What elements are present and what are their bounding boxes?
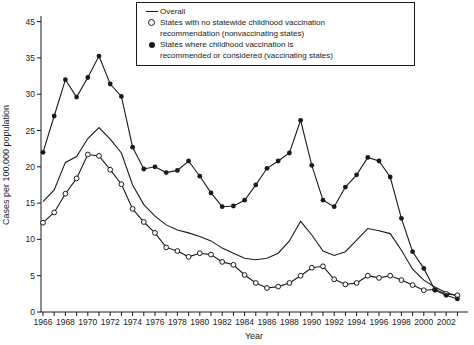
nonvaccinating-data-point <box>209 252 214 257</box>
nonvaccinating-data-point <box>85 152 90 157</box>
nonvaccinating-data-point <box>321 264 326 269</box>
nonvaccinating-data-point <box>63 191 68 196</box>
x-tick-label: 1974 <box>123 317 142 327</box>
nonvaccinating-data-point <box>421 288 426 293</box>
vaccinating-data-point <box>399 216 404 221</box>
nonvaccinating-data-point <box>343 282 348 287</box>
vaccinating-data-point <box>97 54 102 59</box>
vaccinating-data-point <box>41 150 46 155</box>
y-tick-label: 5 <box>30 271 35 281</box>
y-tick-label: 10 <box>26 234 36 244</box>
vaccinating-data-point <box>298 118 303 123</box>
nonvaccinating-data-point <box>153 231 158 236</box>
y-axis-title: Cases per 100,000 population <box>1 105 11 225</box>
vaccinating-data-point <box>85 75 90 80</box>
x-tick-label: 1994 <box>347 317 366 327</box>
x-tick-label: 1986 <box>258 317 277 327</box>
vaccinating-data-point <box>197 174 202 179</box>
nonvaccinating-data-point <box>276 284 281 289</box>
legend-label-overall: Overall <box>160 6 185 17</box>
vaccinating-data-point <box>231 204 236 209</box>
nonvaccinating-data-point <box>141 220 146 225</box>
nonvaccinating-data-point <box>365 273 370 278</box>
vaccinating-data-point <box>377 159 382 164</box>
nonvaccinating-data-point <box>41 220 46 225</box>
vaccinating-data-point <box>444 293 449 298</box>
vaccinating-data-point <box>388 175 393 180</box>
vaccinating-data-point <box>186 159 191 164</box>
nonvaccinating-data-point <box>298 273 303 278</box>
y-tick-label: 20 <box>26 162 36 172</box>
x-tick-label: 1992 <box>325 317 344 327</box>
series-nonvaccinating-line <box>43 155 457 296</box>
x-axis-title: Year <box>245 331 263 341</box>
y-tick-label: 15 <box>26 198 36 208</box>
overall-line-icon <box>143 6 160 17</box>
vaccinating-data-point <box>276 159 281 164</box>
nonvaccinating-data-point <box>309 265 314 270</box>
vaccinating-data-point <box>153 164 158 169</box>
vaccinating-data-point <box>130 145 135 150</box>
vaccinating-data-point <box>242 198 247 203</box>
vaccinating-data-point <box>52 114 57 119</box>
nonvaccinating-data-point <box>186 254 191 259</box>
nonvaccinating-data-point <box>242 273 247 278</box>
legend-label-vaccinating-line2: recommended or considered (vaccinating s… <box>160 50 333 61</box>
chart-legend: Overall States with no statewide childho… <box>136 2 415 66</box>
nonvaccinating-data-point <box>119 182 124 187</box>
vaccinating-data-point <box>354 172 359 177</box>
x-tick-label: 1990 <box>302 317 321 327</box>
vaccinating-data-point <box>455 297 460 302</box>
x-tick-label: 1972 <box>101 317 120 327</box>
nonvaccinating-data-point <box>52 210 57 215</box>
vaccinating-data-point <box>433 288 438 293</box>
legend-label-nonvaccinating: States with no statewide childhood vacci… <box>160 17 325 39</box>
vaccinating-data-point <box>220 204 225 209</box>
x-tick-label: 2000 <box>414 317 433 327</box>
vaccinating-data-point <box>175 168 180 173</box>
nonvaccinating-data-point <box>332 277 337 282</box>
filled-circle-icon <box>143 39 160 50</box>
y-tick-label: 0 <box>30 307 35 317</box>
x-tick-label: 1996 <box>370 317 389 327</box>
legend-item-nonvaccinating: States with no statewide childhood vacci… <box>143 17 408 39</box>
x-tick-label: 1998 <box>392 317 411 327</box>
vaccinating-data-point <box>265 166 270 171</box>
nonvaccinating-data-point <box>74 176 79 181</box>
legend-label-nonvaccinating-line2: recommendation (nonvaccinating states) <box>160 28 325 39</box>
x-tick-label: 1982 <box>213 317 232 327</box>
x-tick-label: 1978 <box>168 317 187 327</box>
x-tick-label: 1980 <box>190 317 209 327</box>
y-tick-label: 35 <box>26 53 36 63</box>
vaccinating-data-point <box>164 170 169 175</box>
vaccinating-data-point <box>287 151 292 156</box>
series-overall-line <box>43 128 457 296</box>
vaccinating-data-point <box>108 82 113 87</box>
vaccinating-data-point <box>365 155 370 160</box>
vaccinating-data-point <box>309 163 314 168</box>
nonvaccinating-data-point <box>265 286 270 291</box>
x-tick-label: 1988 <box>280 317 299 327</box>
vaccinating-data-point <box>321 198 326 203</box>
vaccinating-data-point <box>421 266 426 271</box>
vaccinating-data-point <box>410 249 415 254</box>
nonvaccinating-data-point <box>220 260 225 265</box>
x-tick-label: 1976 <box>146 317 165 327</box>
y-tick-label: 45 <box>26 17 36 27</box>
legend-label-vaccinating-line1: States where childhood vaccination is <box>160 39 333 50</box>
x-tick-label: 2002 <box>437 317 456 327</box>
vaccinating-data-point <box>119 94 124 99</box>
legend-label-nonvaccinating-line1: States with no statewide childhood vacci… <box>160 17 325 28</box>
vaccinating-data-point <box>74 95 79 100</box>
legend-item-vaccinating: States where childhood vaccination is re… <box>143 39 408 61</box>
vaccinating-data-point <box>343 185 348 190</box>
nonvaccinating-data-point <box>377 276 382 281</box>
nonvaccinating-data-point <box>354 281 359 286</box>
vaccinating-data-point <box>209 191 214 196</box>
nonvaccinating-data-point <box>253 281 258 286</box>
x-tick-label: 1984 <box>235 317 254 327</box>
vaccinating-data-point <box>253 183 258 188</box>
nonvaccinating-data-point <box>399 278 404 283</box>
nonvaccinating-data-point <box>108 167 113 172</box>
nonvaccinating-data-point <box>410 283 415 288</box>
